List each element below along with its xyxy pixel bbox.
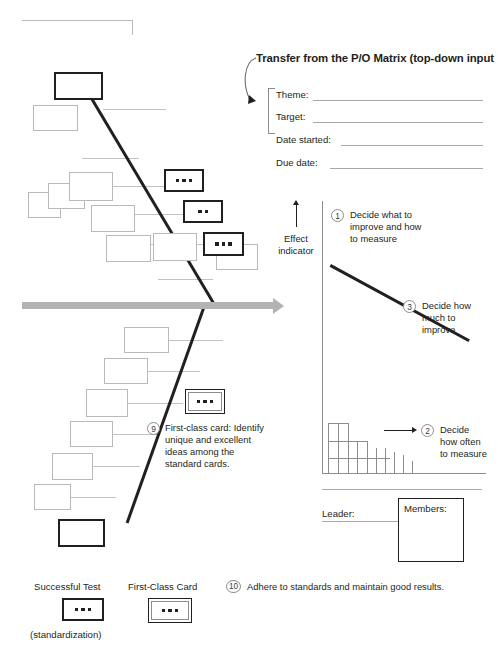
step-2-line-3: to measure xyxy=(440,448,487,460)
idea-card[interactable] xyxy=(70,421,113,447)
hist-bar xyxy=(412,461,413,473)
hist-bar xyxy=(328,423,329,473)
form-group-bracket xyxy=(268,88,275,134)
step-2-arrow-head xyxy=(412,427,417,433)
theme-card-top[interactable] xyxy=(54,72,103,100)
step-1-line-3: to measure xyxy=(350,233,397,245)
step-3-line-3: improve xyxy=(422,324,455,336)
successful-test-card[interactable] xyxy=(164,169,204,192)
connector-line xyxy=(103,109,166,110)
effect-axis-shaft xyxy=(296,205,297,227)
hist-bar xyxy=(348,423,349,473)
connector-line xyxy=(128,403,183,404)
form-label-date-started: Date started: xyxy=(276,134,331,145)
card-dots-3 xyxy=(64,600,102,619)
leader-input[interactable] xyxy=(322,521,400,522)
step-2-arrow-shaft xyxy=(384,430,413,431)
step-number-10: 10 xyxy=(226,580,241,593)
successful-test-card[interactable] xyxy=(183,200,223,223)
step-3-line-1: Decide how xyxy=(422,300,471,312)
form-input-date-started[interactable] xyxy=(341,145,483,146)
form-input-target[interactable] xyxy=(313,122,483,123)
card-dots-3 xyxy=(166,171,202,190)
connector-line xyxy=(70,497,116,498)
idea-card[interactable] xyxy=(153,233,197,261)
idea-card[interactable] xyxy=(91,205,135,232)
corner-crop-mark xyxy=(22,20,133,35)
form-label-target: Target: xyxy=(276,111,305,122)
step-9-line-1: First-class card: Identify xyxy=(165,422,264,434)
process-arrow-head xyxy=(273,298,284,314)
leader-label: Leader: xyxy=(322,508,355,519)
effect-indicator-label-line1: Effect xyxy=(272,233,320,245)
idea-card[interactable] xyxy=(86,389,128,417)
step-3-line-2: much to xyxy=(422,312,455,324)
chart-y-axis xyxy=(322,201,323,473)
connector-line xyxy=(158,279,213,280)
team-top-rule xyxy=(322,489,482,490)
members-label: Members: xyxy=(404,503,447,514)
form-label-theme: Theme: xyxy=(276,89,309,100)
hist-bar xyxy=(385,448,386,473)
step-number-2: 2 xyxy=(421,424,434,437)
hist-bar xyxy=(367,441,368,473)
step-2-line-2: how often xyxy=(440,436,481,448)
hist-bar xyxy=(376,448,377,473)
connector-line xyxy=(168,340,223,341)
step-number-1: 1 xyxy=(331,209,344,222)
successful-test-card[interactable] xyxy=(203,232,244,256)
connector-line xyxy=(82,158,139,159)
legend-first-class-card xyxy=(148,598,192,623)
connector-line xyxy=(148,371,200,372)
idea-card[interactable] xyxy=(34,484,71,510)
step-9-line-4: standard cards. xyxy=(165,458,230,470)
form-input-due-date[interactable] xyxy=(330,168,483,169)
legend-successful-test-label: Successful Test xyxy=(34,581,100,592)
process-arrow-shaft xyxy=(22,302,275,309)
form-label-due-date: Due date: xyxy=(276,157,318,168)
hist-bar xyxy=(357,441,358,473)
idea-card[interactable] xyxy=(33,105,78,131)
step-1-line-2: improve and how xyxy=(350,221,421,233)
legend-successful-test-card xyxy=(62,598,104,621)
card-dots-2 xyxy=(185,202,221,221)
step-2-line-1: Decide xyxy=(440,424,469,436)
step-number-9: 9 xyxy=(147,422,160,435)
results-card-bottom[interactable] xyxy=(58,519,105,547)
hist-bar xyxy=(338,423,339,473)
step-9-line-3: ideas among the xyxy=(165,446,234,458)
idea-card[interactable] xyxy=(104,358,148,384)
chart-x-axis xyxy=(322,473,486,474)
legend-standardization-note: (standardization) xyxy=(30,629,101,640)
step-number-3: 3 xyxy=(403,300,416,313)
idea-card[interactable] xyxy=(124,327,169,353)
page-title: Transfer from the P/O Matrix (top-down i… xyxy=(256,52,494,64)
idea-card[interactable] xyxy=(106,235,151,262)
first-class-card-marker[interactable] xyxy=(185,389,225,414)
step-10-text: Adhere to standards and maintain good re… xyxy=(247,581,444,593)
legend-first-class-card-label: First-Class Card xyxy=(128,581,197,592)
step-9-line-2: unique and excellent xyxy=(165,434,251,446)
form-input-theme[interactable] xyxy=(313,100,483,101)
connector-line xyxy=(92,466,140,467)
hist-bar xyxy=(403,455,404,473)
effect-indicator-label-line2: indicator xyxy=(268,245,324,257)
step-1-line-1: Decide what to xyxy=(350,209,412,221)
idea-card[interactable] xyxy=(69,172,113,201)
card-dots-3 xyxy=(195,399,215,404)
card-dots-3 xyxy=(205,234,242,254)
card-dots-3 xyxy=(160,608,180,613)
idea-card[interactable] xyxy=(52,453,93,480)
hist-bar xyxy=(394,452,395,473)
